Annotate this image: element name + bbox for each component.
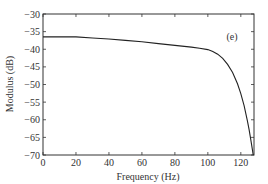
x-tick-label: 20 <box>71 157 81 168</box>
x-tick-label: 0 <box>41 157 46 168</box>
x-axis-label: Frequency (Hz) <box>116 171 179 183</box>
y-tick-label: −55 <box>24 97 40 108</box>
y-tick-label: −35 <box>24 26 40 37</box>
x-tick-label: 100 <box>200 157 215 168</box>
y-tick-label: −30 <box>24 9 40 20</box>
y-tick-label: −70 <box>24 150 40 161</box>
modulus-curve <box>43 37 253 155</box>
modulus-chart: −30−35−40−45−50−55−60−65−70 020406080100… <box>0 0 268 184</box>
y-axis-label: Modulus (dB) <box>4 56 16 112</box>
y-tick-label: −50 <box>24 79 40 90</box>
x-tick-label: 60 <box>137 157 147 168</box>
y-tick-label: −65 <box>24 132 40 143</box>
y-tick-label: −40 <box>24 44 40 55</box>
panel-label: (e) <box>226 31 237 43</box>
y-tick-label: −45 <box>24 61 40 72</box>
y-tick-label: −60 <box>24 114 40 125</box>
x-tick-label: 120 <box>233 157 248 168</box>
plot-frame <box>43 14 254 155</box>
y-axis-ticks: −30−35−40−45−50−55−60−65−70 <box>24 9 254 161</box>
x-tick-label: 40 <box>104 157 114 168</box>
x-tick-label: 80 <box>170 157 180 168</box>
